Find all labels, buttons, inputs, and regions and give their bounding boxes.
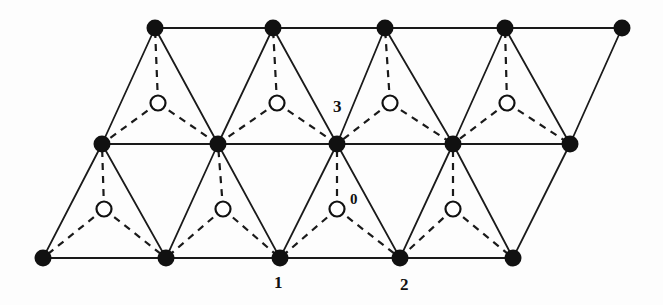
lattice-site-open [446, 202, 461, 217]
lattice-site-filled [505, 250, 522, 267]
site-label-2: 2 [400, 276, 409, 293]
lattice-site-filled [158, 250, 175, 267]
lattice-site-open [216, 202, 231, 217]
lattice-bond-solid [513, 144, 570, 258]
lattice-bond-dashed [337, 209, 400, 258]
lattice-bond-dashed [273, 28, 277, 103]
lattice-bond-dashed [155, 28, 158, 103]
lattice-bond-dashed [158, 103, 218, 144]
lattice-bond-solid [453, 28, 505, 144]
lattice-bond-dashed [277, 103, 337, 144]
lattice-site-filled [210, 136, 227, 153]
lattice-bond-dashed [166, 209, 223, 258]
lattice-site-filled [147, 20, 164, 37]
lattice-bond-dashed [390, 103, 453, 144]
lattice-bond-solid [273, 28, 337, 144]
lattice-bond-solid [337, 144, 400, 258]
lattice-site-open [383, 96, 398, 111]
site-label-0: 0 [350, 192, 358, 207]
lattice-bond-dashed [280, 209, 337, 258]
lattice-bond-solid [218, 144, 280, 258]
lattice-bond-solid [385, 28, 453, 144]
lattice-site-filled [35, 250, 52, 267]
lattice-site-filled [497, 20, 514, 37]
lattice-bond-solid [337, 28, 385, 144]
site-label-3: 3 [333, 98, 342, 115]
lattice-site-filled [614, 20, 631, 37]
lattice-site-filled [377, 20, 394, 37]
lattice-site-open [97, 202, 112, 217]
site-label-1: 1 [274, 274, 283, 291]
lattice-site-filled [562, 136, 579, 153]
lattice-site-filled [94, 136, 111, 153]
lattice-bond-dashed [453, 103, 507, 144]
lattice-site-filled [445, 136, 462, 153]
lattice-site-filled [265, 20, 282, 37]
lattice-site-filled [392, 250, 409, 267]
lattice-bond-solid [43, 144, 102, 258]
lattice-site-open [500, 96, 515, 111]
lattice-bond-solid [505, 28, 570, 144]
lattice-bond-dashed [400, 209, 453, 258]
lattice-bond-solid [102, 28, 155, 144]
lattice-bond-solid [155, 28, 218, 144]
lattice-site-filled [272, 250, 289, 267]
lattice-bond-solid [218, 28, 273, 144]
lattice-bond-dashed [453, 209, 513, 258]
lattice-bond-solid [102, 144, 166, 258]
open-node-group [97, 96, 515, 217]
filled-node-group [35, 20, 631, 267]
lattice-bond-dashed [218, 144, 223, 209]
lattice-bond-dashed [102, 144, 104, 209]
dashed-edge-group [43, 28, 570, 258]
lattice-bond-dashed [104, 209, 166, 258]
lattice-bond-solid [400, 144, 453, 258]
lattice-bond-dashed [505, 28, 507, 103]
lattice-site-open [270, 96, 285, 111]
lattice-bond-solid [166, 144, 218, 258]
lattice-bond-solid [280, 144, 337, 258]
lattice-site-filled [329, 136, 346, 153]
lattice-bond-solid [570, 28, 622, 144]
lattice-bond-dashed [507, 103, 570, 144]
lattice-figure: 3 0 1 2 [0, 0, 663, 305]
lattice-bond-solid [453, 144, 513, 258]
lattice-diagram-svg [0, 0, 663, 305]
lattice-bond-dashed [223, 209, 280, 258]
lattice-site-open [330, 202, 345, 217]
lattice-bond-dashed [385, 28, 390, 103]
lattice-site-open [151, 96, 166, 111]
lattice-bond-dashed [43, 209, 104, 258]
